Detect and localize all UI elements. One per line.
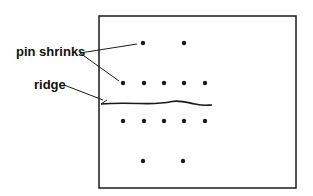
pin-dot (162, 81, 166, 85)
pin-dot (142, 119, 146, 123)
label-ridge: ridge (34, 77, 66, 92)
panel-box (99, 16, 296, 188)
leader-line-ridge (64, 85, 103, 100)
pin-dot (203, 81, 207, 85)
label-pin-shrinks: pin shrinks (16, 44, 85, 59)
pin-dot (121, 119, 125, 123)
pin-dot (121, 81, 125, 85)
leader-line-pin-shrinks-upper (80, 44, 137, 53)
pin-dot (182, 81, 186, 85)
pin-dot (181, 159, 185, 163)
pin-dot (141, 41, 145, 45)
pin-dot (142, 81, 146, 85)
pin-shrink-diagram: pin shrinks ridge (0, 0, 313, 196)
pin-dot (141, 159, 145, 163)
pin-dot (162, 119, 166, 123)
pin-dot (203, 119, 207, 123)
ridge-line (101, 101, 212, 105)
pin-dot (182, 119, 186, 123)
pin-dot (182, 41, 186, 45)
